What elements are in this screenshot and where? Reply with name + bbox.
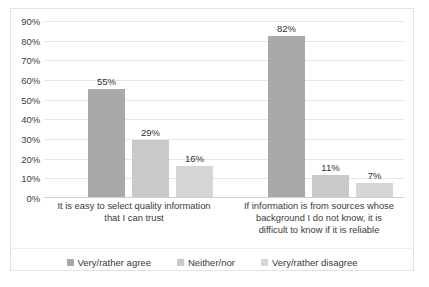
category-label-1-line2: background I do not know, it is	[224, 212, 414, 224]
bar-group0-series0[interactable]: 55%	[88, 89, 125, 197]
gridline	[44, 60, 404, 61]
y-axis-tick: 70%	[21, 55, 40, 66]
legend-swatch-icon	[261, 259, 268, 266]
bar-value-label: 16%	[185, 153, 204, 164]
x-axis-category-labels: It is easy to select quality information…	[44, 200, 404, 245]
y-axis-tick: 50%	[21, 94, 40, 105]
category-label-0: It is easy to select quality information…	[36, 200, 232, 224]
bar-value-label: 11%	[321, 162, 339, 173]
legend-item-very-rather-disagree[interactable]: Very/rather disagree	[261, 257, 358, 268]
x-axis-line	[44, 197, 404, 198]
category-label-0-line1: It is easy to select quality information	[36, 200, 232, 212]
bar-value-label: 7%	[368, 170, 382, 181]
category-label-1-line3: difficult to know if it is reliable	[224, 224, 414, 236]
legend-label: Neither/nor	[188, 257, 235, 268]
y-axis-tick: 20%	[21, 153, 40, 164]
bar-group1-series2[interactable]: 7%	[356, 183, 393, 197]
bar-value-label: 55%	[97, 76, 116, 87]
bar-group0-series1[interactable]: 29%	[132, 140, 169, 197]
y-axis-tick: 40%	[21, 114, 40, 125]
bar-group0-series2[interactable]: 16%	[176, 166, 213, 198]
legend-divider	[12, 248, 412, 249]
y-axis-tick: 10%	[21, 173, 40, 184]
category-label-1-line1: If information is from sources whose	[224, 200, 414, 212]
legend-label: Very/rather agree	[78, 257, 151, 268]
chart-legend: Very/rather agree Neither/nor Very/rathe…	[11, 257, 413, 268]
legend-swatch-icon	[177, 259, 184, 266]
category-label-0-line2: that I can trust	[36, 212, 232, 224]
bar-group1-series0[interactable]: 82%	[268, 36, 305, 197]
y-axis-tick: 80%	[21, 35, 40, 46]
legend-label: Very/rather disagree	[272, 257, 358, 268]
legend-item-neither-nor[interactable]: Neither/nor	[177, 257, 235, 268]
y-axis-tick: 90%	[21, 16, 40, 27]
gridline	[44, 21, 404, 22]
legend-item-very-rather-agree[interactable]: Very/rather agree	[67, 257, 151, 268]
y-axis: 90% 80% 70% 60% 50% 40% 30% 20% 10% 0%	[11, 21, 44, 198]
plot-area: 55% 29% 16% 82% 11% 7%	[44, 21, 404, 198]
bar-value-label: 29%	[141, 127, 160, 138]
chart-container: 90% 80% 70% 60% 50% 40% 30% 20% 10% 0% 5…	[10, 8, 414, 271]
category-label-1: If information is from sources whose bac…	[224, 200, 414, 237]
bar-value-label: 82%	[277, 23, 296, 34]
y-axis-tick: 60%	[21, 74, 40, 85]
legend-swatch-icon	[67, 259, 74, 266]
y-axis-tick: 30%	[21, 133, 40, 144]
bar-group1-series1[interactable]: 11%	[312, 175, 349, 197]
gridline	[44, 41, 404, 42]
